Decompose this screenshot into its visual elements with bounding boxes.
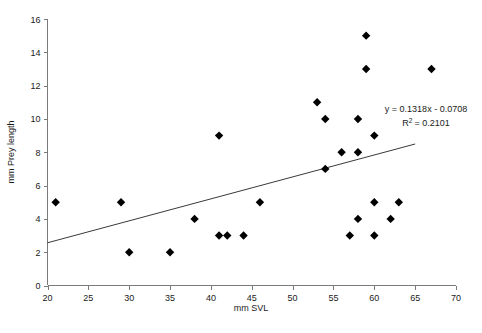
- data-point-marker: [362, 65, 370, 73]
- y-tick-label: 0: [35, 281, 40, 291]
- trendline: [48, 144, 416, 243]
- data-point-marker: [321, 115, 329, 123]
- data-point-marker: [370, 231, 378, 239]
- data-points: [51, 31, 435, 256]
- data-point-marker: [370, 131, 378, 139]
- y-axis-ticks: 0246810121416: [30, 15, 47, 292]
- plot-area: 0246810121416 2025303540455055606570 mm …: [0, 0, 482, 333]
- r-squared-value: = 0.2101: [414, 118, 449, 128]
- x-tick-label: 35: [165, 293, 175, 303]
- data-point-marker: [427, 65, 435, 73]
- r-squared-label: R2= 0.2101: [402, 117, 449, 129]
- r-squared-exponent: 2: [409, 117, 413, 124]
- data-point-marker: [354, 148, 362, 156]
- data-point-marker: [239, 231, 247, 239]
- y-tick-label: 8: [35, 148, 40, 158]
- data-point-marker: [117, 198, 125, 206]
- y-axis-title: mm Prey length: [6, 120, 16, 183]
- y-tick-label: 2: [35, 248, 40, 258]
- data-point-marker: [386, 215, 394, 223]
- data-point-marker: [354, 215, 362, 223]
- data-point-marker: [190, 215, 198, 223]
- x-tick-label: 25: [83, 293, 93, 303]
- x-tick-label: 70: [451, 293, 461, 303]
- x-tick-label: 55: [328, 293, 338, 303]
- x-tick-label: 30: [124, 293, 134, 303]
- data-point-marker: [354, 115, 362, 123]
- data-point-marker: [125, 248, 133, 256]
- x-tick-label: 50: [288, 293, 298, 303]
- y-tick-label: 14: [30, 48, 40, 58]
- y-tick-label: 6: [35, 181, 40, 191]
- data-point-marker: [166, 248, 174, 256]
- x-axis-ticks: 2025303540455055606570: [42, 286, 461, 303]
- x-tick-label: 40: [206, 293, 216, 303]
- y-tick-label: 10: [30, 114, 40, 124]
- data-point-marker: [370, 198, 378, 206]
- trendline-equation-label: y = 0.1318x - 0.0708: [385, 104, 467, 114]
- x-tick-label: 65: [410, 293, 420, 303]
- data-point-marker: [337, 148, 345, 156]
- data-point-marker: [51, 198, 59, 206]
- data-point-marker: [362, 31, 370, 39]
- x-tick-label: 60: [369, 293, 379, 303]
- x-axis-title: mm SVL: [234, 303, 269, 313]
- data-point-marker: [223, 231, 231, 239]
- data-point-marker: [395, 198, 403, 206]
- data-point-marker: [321, 165, 329, 173]
- data-point-marker: [346, 231, 354, 239]
- scatter-chart: 0246810121416 2025303540455055606570 mm …: [0, 0, 482, 333]
- y-tick-label: 12: [30, 81, 40, 91]
- data-point-marker: [215, 131, 223, 139]
- y-tick-label: 4: [35, 214, 40, 224]
- data-point-marker: [313, 98, 321, 106]
- data-point-marker: [256, 198, 264, 206]
- y-tick-label: 16: [30, 15, 40, 25]
- data-point-marker: [215, 231, 223, 239]
- x-tick-label: 20: [42, 293, 52, 303]
- x-tick-label: 45: [247, 293, 257, 303]
